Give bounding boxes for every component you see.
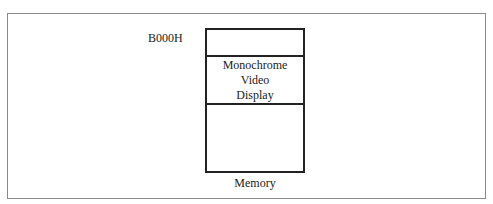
diagram-caption: Memory [205,176,305,191]
segment-label-line: Monochrome [223,58,288,73]
memory-segment-monochrome-video: Monochrome Video Display [207,57,303,105]
segment-label-line: Display [236,88,273,103]
memory-map-box: Monochrome Video Display [205,28,305,173]
address-label: B000H [148,31,183,46]
memory-segment-upper [207,30,303,57]
memory-segment-lower [207,105,303,171]
segment-label-line: Video [241,73,270,88]
